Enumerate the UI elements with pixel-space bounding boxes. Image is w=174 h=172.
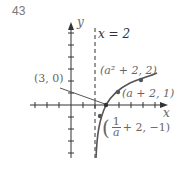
y-axis-label: y — [77, 15, 84, 29]
paren-open: ( — [102, 118, 110, 138]
fraction: 1 a — [112, 117, 121, 138]
y-axis — [68, 22, 74, 158]
point-a2-plus-2 — [139, 78, 143, 82]
x-axis — [30, 102, 168, 108]
label-a2-plus-2: (a² + 2, 2) — [100, 64, 157, 77]
point-3-0 — [104, 103, 108, 107]
label-3-0: (3, 0) — [34, 72, 64, 85]
leader-line — [60, 88, 105, 104]
graph — [0, 0, 174, 172]
label-1-over-a: ( 1 a + 2, −1) — [102, 117, 170, 138]
label-a-plus-2: (a + 2, 1) — [122, 87, 174, 100]
asymptote-label: x = 2 — [98, 27, 130, 41]
point-a-plus-2 — [116, 90, 120, 94]
denominator: a — [113, 128, 120, 138]
frac-rest: + 2, −1) — [123, 121, 170, 134]
